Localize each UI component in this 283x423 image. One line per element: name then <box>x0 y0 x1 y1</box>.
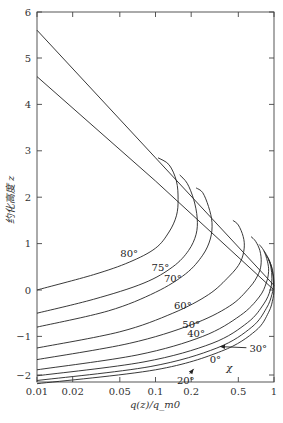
x-axis: 0.010.020.050.10.20.51 <box>26 12 277 397</box>
x-tick-label: 0.1 <box>148 386 164 397</box>
upper-envelope-line <box>37 30 274 285</box>
y-tick-label: −2 <box>16 370 31 381</box>
y-tick-label: −1 <box>16 331 31 342</box>
x-tick-label: 0.2 <box>183 386 199 397</box>
x-tick-label: 0.02 <box>62 386 84 397</box>
y-tick-label: 0 <box>25 285 31 296</box>
x-axis-title: q(z)/q_m0 <box>130 399 181 411</box>
y-tick-label: 4 <box>25 99 31 110</box>
annotations-layer: 80°75°70°60°50°40°30°20°0°χ <box>120 248 267 386</box>
y-tick-label: 3 <box>25 145 31 156</box>
y-axis-title: 约化高度 z <box>5 175 16 224</box>
x-tick-label: 0.05 <box>109 386 131 397</box>
lower-envelope-line <box>37 77 274 290</box>
curve-label: 20° <box>177 375 195 386</box>
x-tick-label: 1 <box>271 386 277 397</box>
y-tick-label: 6 <box>25 7 31 18</box>
x-tick-label: 0.5 <box>230 386 246 397</box>
curve-50deg <box>37 237 261 360</box>
curve-75deg <box>37 175 197 313</box>
curve-label: 75° <box>152 262 170 273</box>
y-tick-label: 2 <box>25 192 31 203</box>
chart: 0.010.020.050.10.20.51 −2−10123456 80°75… <box>0 0 283 423</box>
curve-label: 80° <box>120 248 138 259</box>
curve-label: 40° <box>187 328 205 339</box>
curve-20deg <box>37 255 274 380</box>
y-tick-label: 5 <box>25 53 31 64</box>
lines-layer <box>37 30 274 290</box>
x-tick-label: 0.01 <box>26 386 48 397</box>
y-tick-label: 1 <box>25 238 31 249</box>
curve-label: χ <box>225 362 233 373</box>
curve-label: 0° <box>210 354 221 365</box>
curve-label: 30° <box>249 343 267 354</box>
plot-frame <box>37 12 274 382</box>
curve-label: 70° <box>164 273 182 284</box>
plot-area <box>37 12 274 382</box>
curve-label: 60° <box>174 300 192 311</box>
